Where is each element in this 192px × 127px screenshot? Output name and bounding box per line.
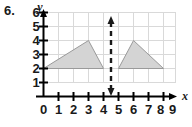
y-tick-label: 3 [32, 47, 39, 62]
y-tick-labels: 1 2 3 4 5 6 [32, 5, 40, 90]
x-tick-label: 8 [157, 102, 164, 117]
x-tick-label: 3 [85, 102, 92, 117]
x-axis-arrowhead [169, 93, 177, 100]
y-tick-label: 2 [32, 61, 39, 76]
y-axis-label: y [35, 0, 43, 14]
line-of-reflection [108, 16, 115, 96]
reflection-figure: 6. [0, 0, 192, 127]
coordinate-plane: 1 2 3 4 5 6 0 1 2 3 4 5 6 7 8 9 y x [0, 0, 192, 127]
x-tick-label: 0 [40, 102, 47, 117]
y-tick-label: 5 [32, 19, 39, 34]
x-tick-label: 2 [70, 102, 77, 117]
reflection-arrow-up [108, 16, 115, 24]
x-tick-label: 6 [130, 102, 137, 117]
x-axis-label: x [181, 89, 188, 103]
reflection-arrow-down [108, 88, 115, 96]
x-tick-label: 9 [169, 102, 176, 117]
x-tick-label: 5 [115, 102, 122, 117]
y-tick-label: 1 [32, 75, 39, 90]
y-tick-label: 4 [32, 33, 40, 48]
x-tick-label: 4 [100, 102, 108, 117]
x-tick-label: 1 [55, 102, 62, 117]
x-tick-labels: 0 1 2 3 4 5 6 7 8 9 [40, 102, 176, 117]
x-tick-label: 7 [145, 102, 152, 117]
